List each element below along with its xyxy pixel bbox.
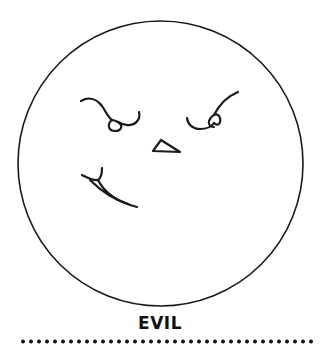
nose-icon xyxy=(153,140,180,152)
right-eye-icon xyxy=(187,92,238,129)
left-eye-icon xyxy=(81,99,139,131)
face-outline xyxy=(18,21,303,306)
face-caption: EVIL xyxy=(0,313,320,333)
dotted-separator xyxy=(0,338,320,344)
evil-face-illustration xyxy=(0,0,320,344)
mouth-icon xyxy=(82,168,137,207)
